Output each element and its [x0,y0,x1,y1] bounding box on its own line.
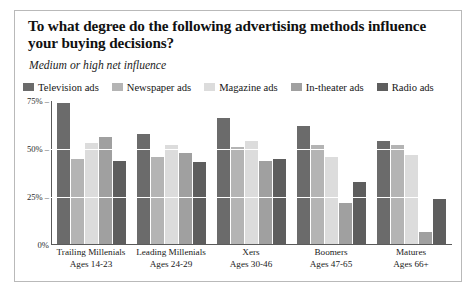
legend-item-television-ads[interactable]: Television ads [23,82,99,93]
legend-label: Television ads [38,82,99,93]
x-axis-group-label: MaturesAges 66+ [371,247,451,270]
bar[interactable] [193,162,206,245]
x-axis-group-ages: Ages 14-23 [51,259,131,271]
x-axis-line [51,244,452,245]
gridline [51,197,451,198]
x-axis-group-label: XersAges 30-46 [211,247,291,270]
bar[interactable] [433,199,446,245]
bar[interactable] [179,153,192,245]
bar[interactable] [99,137,112,245]
chart-card: To what degree do the following advertis… [14,10,462,282]
x-axis-group-name: Leading Millenials [136,247,206,257]
x-axis-group-ages: Ages 24-29 [131,259,211,271]
bar-group [211,101,291,245]
bar-group [131,101,211,245]
bar[interactable] [405,155,418,245]
bar[interactable] [339,203,352,245]
chart-legend: Television adsNewspaper adsMagazine adsI… [23,80,457,94]
bar[interactable] [311,145,324,245]
legend-item-newspaper-ads[interactable]: Newspaper ads [112,82,191,93]
x-axis-group-ages: Ages 30-46 [211,259,291,271]
bar[interactable] [419,232,432,245]
y-axis-tick-mark-icon: – [45,192,49,202]
x-axis-group-name: Trailing Millenials [57,247,126,257]
chart-title: To what degree do the following advertis… [28,17,448,51]
y-axis-tick-text: 0% [38,240,49,250]
y-axis-tick-text: 75% [27,96,43,106]
bar[interactable] [165,145,178,245]
y-axis-tick-mark-icon: – [45,144,49,154]
legend-label: In-theater ads [306,82,364,93]
bar[interactable] [151,157,164,245]
bar[interactable] [85,143,98,245]
legend-label: Magazine ads [219,82,278,93]
y-axis-tick-label: 25%– [27,192,49,202]
y-axis-tick-label: 50%– [27,144,49,154]
bar[interactable] [297,126,310,245]
bar-group [291,101,371,245]
gridline [51,149,451,150]
x-axis-group-label: BoomersAges 47-65 [291,247,371,270]
x-axis-group-label: Leading MillenialsAges 24-29 [131,247,211,270]
bar[interactable] [57,103,70,245]
x-axis-group-name: Boomers [314,247,347,257]
bar[interactable] [245,141,258,245]
legend-item-radio-ads[interactable]: Radio ads [377,82,434,93]
legend-swatch-icon [291,83,302,91]
legend-label: Radio ads [392,82,434,93]
legend-swatch-icon [204,83,215,91]
legend-swatch-icon [23,83,34,91]
legend-item-in-theater-ads[interactable]: In-theater ads [291,82,364,93]
y-axis-tick-label: 75%– [27,96,49,106]
bar[interactable] [259,161,272,245]
bar[interactable] [217,118,230,245]
x-axis-group-label: Trailing MillenialsAges 14-23 [51,247,131,270]
bar[interactable] [377,141,390,245]
bar-group [371,101,451,245]
y-axis-ticks: 75%–50%–25%–0% [15,101,49,245]
bar[interactable] [391,145,404,245]
y-axis-tick-text: 25% [27,192,43,202]
x-axis-group-ages: Ages 47-65 [291,259,371,271]
x-axis-group-ages: Ages 66+ [371,259,451,271]
chart-subtitle: Medium or high net influence [29,59,166,72]
bar[interactable] [113,161,126,245]
x-axis-group-name: Xers [242,247,259,257]
bar[interactable] [325,157,338,245]
y-axis-tick-mark-icon: – [45,96,49,106]
bar-group [51,101,131,245]
legend-swatch-icon [112,83,123,91]
bar[interactable] [273,159,286,245]
x-axis-group-name: Matures [396,247,426,257]
legend-swatch-icon [377,83,388,91]
bar[interactable] [137,134,150,245]
bar[interactable] [71,159,84,245]
legend-label: Newspaper ads [127,82,191,93]
plot-area [51,101,451,245]
legend-item-magazine-ads[interactable]: Magazine ads [204,82,278,93]
bar[interactable] [353,182,366,245]
x-axis-labels: Trailing MillenialsAges 14-23Leading Mil… [51,247,452,277]
y-axis-tick-text: 50% [27,144,43,154]
y-axis-tick-label: 0% [38,240,49,250]
